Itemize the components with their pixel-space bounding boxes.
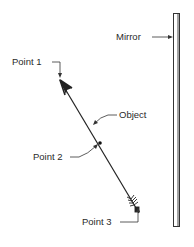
- object-arrow: [59, 79, 139, 213]
- point2-leader-arrow: [70, 144, 98, 157]
- arrowhead-icon: [59, 79, 72, 95]
- point1-leader-arrow: [52, 62, 62, 78]
- object-label: Object: [119, 109, 147, 120]
- mirror-label: Mirror: [116, 31, 141, 42]
- object-leader-arrow: [93, 115, 117, 125]
- point3-label: Point 3: [82, 216, 112, 227]
- point2-dot: [98, 141, 102, 145]
- mirror-leader-arrow: [152, 35, 173, 39]
- mirror-object-diagram: Mirror Point 1 Object: [0, 0, 194, 247]
- mirror: [174, 14, 180, 227]
- point2-label: Point 2: [33, 151, 63, 162]
- point1-label: Point 1: [12, 56, 42, 67]
